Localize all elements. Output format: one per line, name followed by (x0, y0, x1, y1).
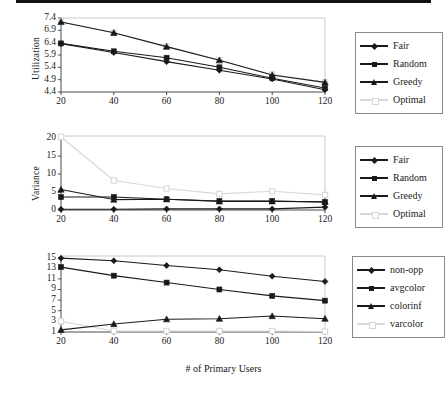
legend-label: Random (393, 59, 427, 69)
legend-label: colorinf (390, 301, 422, 311)
legend-label: Fair (393, 41, 409, 51)
legend-item-colorinf[interactable]: colorinf (357, 297, 438, 315)
legend-marker-diamond-icon (360, 154, 388, 166)
y-axis-title: Variance (31, 166, 41, 201)
chart-panel-variance: 0510152020406080100120VarianceFairRandom… (0, 128, 447, 240)
legend-label: non-opp (390, 265, 423, 275)
legend-label: avgcolor (390, 283, 425, 293)
legend-item-Fair[interactable]: Fair (360, 151, 436, 169)
legend-label: Optimal (393, 95, 426, 105)
legend-marker-square-icon (360, 58, 388, 70)
legend-marker-square-icon (360, 172, 388, 184)
legend-marker-osquare-icon (357, 318, 385, 330)
figure-three-line-charts: 4.44.95.45.96.46.97.420406080100120Utili… (0, 0, 447, 400)
chart-panel-coloring: 1357911131520406080100120non-oppavgcolor… (0, 248, 447, 360)
legend-label: Random (393, 173, 427, 183)
legend-label: Optimal (393, 209, 426, 219)
legend-item-Greedy[interactable]: Greedy (360, 187, 436, 205)
series-markers-colorinf (58, 313, 328, 333)
legend-marker-square-icon (357, 282, 385, 294)
legend-marker-diamond-icon (357, 264, 385, 276)
legend-marker-triangle-icon (357, 300, 385, 312)
legend-marker-triangle-icon (360, 190, 388, 202)
legend-item-avgcolor[interactable]: avgcolor (357, 279, 438, 297)
legend-marker-osquare-icon (360, 208, 388, 220)
legend-item-Random[interactable]: Random (360, 55, 436, 73)
legend-2: non-oppavgcolorcolorinfvarcolor (352, 256, 445, 338)
legend-label: Greedy (393, 77, 422, 87)
legend-marker-diamond-icon (360, 40, 388, 52)
chart-panel-utilization: 4.44.95.45.96.46.97.420406080100120Utili… (0, 4, 447, 122)
legend-item-varcolor[interactable]: varcolor (357, 315, 438, 333)
legend-marker-osquare-icon (360, 94, 388, 106)
series-markers-Optimal (58, 19, 327, 85)
legend-item-Optimal[interactable]: Optimal (360, 205, 436, 223)
legend-marker-triangle-icon (360, 76, 388, 88)
legend-label: varcolor (390, 319, 423, 329)
series-markers-Optimal (58, 134, 327, 197)
x-axis-title: # of Primary Users (0, 363, 447, 374)
series-markers-Greedy (58, 19, 328, 85)
legend-item-Greedy[interactable]: Greedy (360, 73, 436, 91)
legend-item-Random[interactable]: Random (360, 169, 436, 187)
legend-label: Fair (393, 155, 409, 165)
legend-label: Greedy (393, 191, 422, 201)
legend-1: FairRandomGreedyOptimal (355, 146, 443, 228)
legend-item-non-opp[interactable]: non-opp (357, 261, 438, 279)
legend-item-Fair[interactable]: Fair (360, 37, 436, 55)
bottom-divider-rule (16, 0, 431, 3)
y-axis-title: Utilization (31, 37, 41, 80)
legend-item-Optimal[interactable]: Optimal (360, 91, 436, 109)
legend-0: FairRandomGreedyOptimal (355, 32, 443, 114)
